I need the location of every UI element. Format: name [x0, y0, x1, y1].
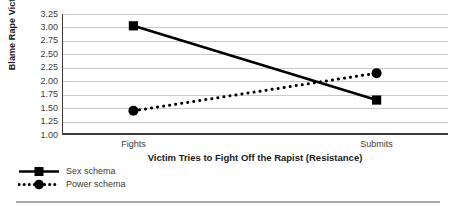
- y-tick-label: 2.50: [26, 50, 58, 59]
- chart-figure: Blame Rape Victim 3.253.002.752.502.252.…: [0, 0, 458, 218]
- x-tick-label: Fights: [121, 139, 146, 149]
- y-tick-label: 2.75: [26, 36, 58, 45]
- data-point-marker: [129, 21, 138, 30]
- y-tick-label: 1.50: [26, 104, 58, 113]
- series-layer: [62, 14, 448, 135]
- data-point-marker: [128, 106, 138, 116]
- y-tick-label: 3.00: [26, 23, 58, 32]
- y-tick-label: 3.25: [26, 10, 58, 19]
- legend-entry: Power schema: [18, 177, 208, 190]
- legend-label: Sex schema: [66, 166, 116, 176]
- y-axis-title: Blame Rape Victim: [7, 0, 17, 89]
- x-tick-label: Submits: [360, 139, 393, 149]
- series-line: [133, 26, 376, 100]
- y-axis-tick-labels: 3.253.002.752.502.252.001.751.501.251.00: [26, 10, 58, 138]
- y-tick-label: 1.25: [26, 117, 58, 126]
- legend-label: Power schema: [66, 179, 126, 189]
- x-axis-title: Victim Tries to Fight Off the Rapist (Re…: [62, 152, 448, 163]
- square-solid-line-key: [18, 164, 60, 177]
- y-tick-label: 1.75: [26, 90, 58, 99]
- x-axis-tick-labels: FightsSubmits: [62, 139, 448, 153]
- data-point-marker: [372, 68, 382, 78]
- plot-area: [62, 14, 448, 135]
- y-tick-label: 1.00: [26, 131, 58, 140]
- series-line: [133, 73, 376, 111]
- circle-dotted-line-key: [18, 177, 60, 190]
- legend: Sex schemaPower schema: [18, 164, 208, 190]
- data-point-marker: [372, 95, 381, 104]
- gridline: [62, 135, 448, 136]
- y-tick-label: 2.25: [26, 63, 58, 72]
- bottom-divider: [16, 201, 440, 203]
- legend-entry: Sex schema: [18, 164, 208, 177]
- y-tick-label: 2.00: [26, 77, 58, 86]
